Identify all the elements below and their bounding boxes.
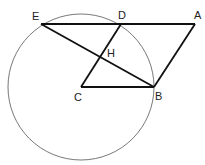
label-b: B bbox=[155, 91, 162, 102]
geometry-diagram: E D A H C B bbox=[0, 0, 205, 165]
label-a: A bbox=[194, 10, 201, 21]
segment-cd bbox=[81, 24, 121, 87]
label-d: D bbox=[118, 10, 126, 21]
label-e: E bbox=[32, 11, 39, 22]
diagram-canvas bbox=[0, 0, 205, 165]
label-h: H bbox=[107, 48, 115, 59]
segment-ab bbox=[154, 24, 195, 87]
segment-eb bbox=[41, 24, 154, 87]
label-c: C bbox=[74, 92, 82, 103]
